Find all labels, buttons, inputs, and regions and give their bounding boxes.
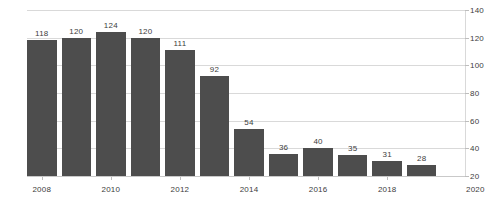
bar-group[interactable]: 92: [200, 10, 230, 176]
y-axis-tick-label: 40: [470, 144, 479, 153]
bar[interactable]: [372, 161, 402, 176]
y-axis-tick-label: 20: [470, 172, 479, 181]
bar[interactable]: [303, 148, 333, 176]
y-axis-tick-mark: [465, 176, 469, 177]
y-axis-tick-mark: [465, 93, 469, 94]
bar[interactable]: [200, 76, 230, 176]
y-axis-tick-mark: [465, 10, 469, 11]
x-axis-tick-label: 2010: [102, 185, 121, 194]
bar-value-label: 111: [165, 39, 195, 48]
y-axis-tick-label: 60: [470, 116, 479, 125]
y-axis-tick-mark: [465, 65, 469, 66]
x-axis-tick-mark: [42, 177, 43, 180]
y-axis-tick-label: 140: [470, 6, 484, 15]
x-axis-tick-label: 2016: [309, 185, 328, 194]
bar-value-label: 28: [407, 154, 437, 163]
bar-group[interactable]: 54: [234, 10, 264, 176]
bar[interactable]: [96, 32, 126, 176]
x-axis-tick-mark: [249, 177, 250, 180]
bar-value-label: 118: [27, 29, 57, 38]
bar[interactable]: [165, 50, 195, 176]
bar-group[interactable]: 118: [27, 10, 57, 176]
bar-group[interactable]: 31: [372, 10, 402, 176]
bar-group[interactable]: 120: [62, 10, 92, 176]
bar[interactable]: [27, 40, 57, 176]
bar-series: 11812012412011192543640353128: [27, 10, 465, 176]
x-axis-tick-label: 2008: [32, 185, 51, 194]
y-axis-tick-mark: [465, 121, 469, 122]
x-axis-tick-mark: [111, 177, 112, 180]
bar-value-label: 36: [269, 143, 299, 152]
bar-group[interactable]: 40: [303, 10, 333, 176]
bar-value-label: 92: [200, 65, 230, 74]
bar-group[interactable]: 36: [269, 10, 299, 176]
x-axis-tick-label: 2018: [378, 185, 397, 194]
bar-group[interactable]: 120: [131, 10, 161, 176]
bar[interactable]: [131, 38, 161, 176]
x-axis-tick-label: 2012: [171, 185, 190, 194]
bar-group[interactable]: 35: [338, 10, 368, 176]
bar[interactable]: [407, 165, 437, 176]
y-axis-tick-mark: [465, 38, 469, 39]
bar[interactable]: [234, 129, 264, 176]
bar-value-label: 40: [303, 137, 333, 146]
bar-value-label: 35: [338, 144, 368, 153]
y-axis-tick-mark: [465, 148, 469, 149]
x-axis-tick-mark: [180, 177, 181, 180]
bar[interactable]: [62, 38, 92, 176]
y-axis-tick-label: 80: [470, 89, 479, 98]
y-axis-tick-label: 120: [470, 33, 484, 42]
bar-value-label: 120: [62, 27, 92, 36]
bar[interactable]: [338, 155, 368, 176]
x-axis-tick-mark: [318, 177, 319, 180]
bar-chart: 11812012412011192543640353128 2008201020…: [0, 0, 497, 204]
bar-value-label: 54: [234, 118, 264, 127]
bar[interactable]: [269, 154, 299, 176]
x-axis-ticks: 200820102012201420162018: [27, 177, 465, 201]
bar-group[interactable]: 124: [96, 10, 126, 176]
y-axis-tick-label: 100: [470, 61, 484, 70]
bar-value-label: 124: [96, 21, 126, 30]
x-axis-tick-mark: [387, 177, 388, 180]
bar-value-label: 120: [131, 27, 161, 36]
bar-value-label: 31: [372, 150, 402, 159]
x-axis-tick-label: 2014: [240, 185, 259, 194]
bar-group[interactable]: 28: [407, 10, 437, 176]
x-axis-end-label: 2020: [466, 185, 485, 194]
bar-group[interactable]: 111: [165, 10, 195, 176]
